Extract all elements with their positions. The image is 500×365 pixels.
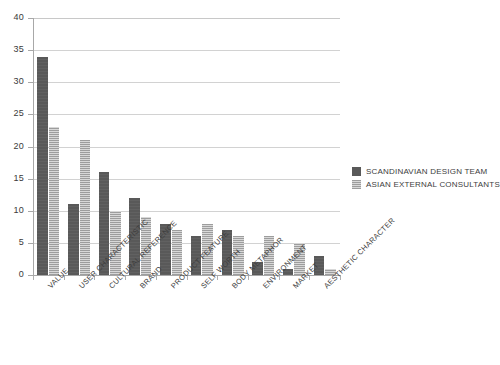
bar bbox=[233, 236, 244, 275]
x-tick-mark bbox=[94, 276, 95, 280]
bar bbox=[222, 230, 233, 275]
bar bbox=[172, 230, 183, 275]
bar-group bbox=[37, 18, 59, 275]
bar-group bbox=[252, 18, 274, 275]
bar bbox=[99, 172, 110, 275]
x-tick-mark bbox=[279, 276, 280, 280]
chart-legend: SCANDINAVIAN DESIGN TEAMASIAN EXTERNAL C… bbox=[352, 167, 500, 193]
bar-group bbox=[283, 18, 305, 275]
y-tick-mark bbox=[28, 179, 33, 180]
legend-swatch-icon bbox=[352, 180, 361, 189]
bar-group bbox=[191, 18, 213, 275]
bar bbox=[314, 256, 325, 275]
bar-group bbox=[222, 18, 244, 275]
x-tick-mark bbox=[64, 276, 65, 280]
bar-group bbox=[68, 18, 90, 275]
bar bbox=[264, 236, 275, 275]
y-tick-label: 25 bbox=[0, 108, 24, 118]
y-tick-label: 5 bbox=[0, 237, 24, 247]
legend-label: SCANDINAVIAN DESIGN TEAM bbox=[366, 167, 487, 176]
legend-item[interactable]: ASIAN EXTERNAL CONSULTANTS bbox=[352, 180, 500, 189]
bar bbox=[141, 217, 152, 275]
x-tick-mark bbox=[217, 276, 218, 280]
x-tick-mark bbox=[309, 276, 310, 280]
bar bbox=[129, 198, 140, 275]
bar bbox=[110, 211, 121, 275]
y-tick-label: 15 bbox=[0, 173, 24, 183]
y-tick-label: 30 bbox=[0, 76, 24, 86]
x-tick-mark bbox=[187, 276, 188, 280]
x-tick-mark bbox=[125, 276, 126, 280]
y-tick-label: 40 bbox=[0, 12, 24, 22]
y-tick-label: 10 bbox=[0, 205, 24, 215]
bar bbox=[191, 236, 202, 275]
bar bbox=[80, 140, 91, 275]
y-tick-mark bbox=[28, 147, 33, 148]
y-tick-mark bbox=[28, 211, 33, 212]
bar bbox=[252, 262, 263, 275]
y-tick-mark bbox=[28, 18, 33, 19]
y-tick-mark bbox=[28, 243, 33, 244]
legend-item[interactable]: SCANDINAVIAN DESIGN TEAM bbox=[352, 167, 500, 176]
bar-group bbox=[99, 18, 121, 275]
y-tick-label: 0 bbox=[0, 269, 24, 279]
bar bbox=[68, 204, 79, 275]
bar-group bbox=[160, 18, 182, 275]
bar bbox=[294, 243, 305, 275]
x-tick-mark bbox=[340, 276, 341, 280]
bar bbox=[202, 224, 213, 275]
y-axis-line bbox=[33, 18, 34, 276]
x-tick-mark bbox=[33, 276, 34, 280]
plot-area bbox=[33, 18, 340, 275]
bar bbox=[49, 127, 60, 275]
y-tick-mark bbox=[28, 50, 33, 51]
x-tick-mark bbox=[248, 276, 249, 280]
bar-group bbox=[129, 18, 151, 275]
y-tick-mark bbox=[28, 82, 33, 83]
bar bbox=[160, 224, 171, 275]
bar bbox=[37, 57, 48, 275]
y-tick-label: 20 bbox=[0, 141, 24, 151]
x-tick-mark bbox=[156, 276, 157, 280]
legend-swatch-icon bbox=[352, 167, 361, 176]
bar-group bbox=[314, 18, 336, 275]
y-tick-label: 35 bbox=[0, 44, 24, 54]
legend-label: ASIAN EXTERNAL CONSULTANTS bbox=[366, 180, 500, 189]
y-tick-mark bbox=[28, 114, 33, 115]
